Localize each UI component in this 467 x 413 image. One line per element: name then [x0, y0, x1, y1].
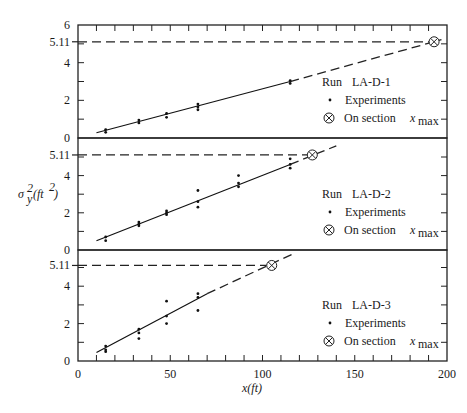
panel-1: 02465.11RunLA-D-1ExperimentsOn sectionxm…: [49, 18, 447, 145]
data-point: [137, 328, 140, 331]
data-point: [197, 200, 200, 203]
legend-experiments-label: Experiments: [345, 205, 406, 219]
x-axis-label: x(ft): [241, 381, 262, 395]
y-tick-label: 2: [64, 93, 70, 107]
data-point: [165, 210, 168, 213]
panel-3: 0245.11RunLA-D-3ExperimentsOn sectionxma…: [49, 250, 447, 368]
legend-experiments-marker: [329, 322, 332, 325]
data-point: [197, 108, 200, 111]
y-tick-label: 4: [64, 56, 70, 70]
data-point: [165, 300, 168, 303]
y-tick-label: 0: [64, 354, 70, 368]
legend-section-sub: max: [418, 114, 439, 128]
legend-experiments-label: Experiments: [345, 93, 406, 107]
x-tick-label: 150: [346, 367, 364, 381]
data-point: [289, 163, 292, 166]
fit-line: [96, 82, 290, 133]
legend-run-label: Run: [322, 75, 342, 89]
legend-run-name: LA-D-2: [352, 187, 391, 201]
panel-2: 0245.11RunLA-D-2ExperimentsOn sectionxma…: [49, 138, 447, 257]
data-point: [137, 337, 140, 340]
data-point: [197, 309, 200, 312]
legend-run-name: LA-D-1: [352, 75, 391, 89]
legend-experiments-label: Experiments: [345, 316, 406, 330]
x-max-marker: [267, 260, 277, 270]
legend-section-label: On section: [344, 334, 396, 348]
data-point: [104, 348, 107, 351]
legend-run-label: Run: [322, 298, 342, 312]
y-axis-label-unit: (ft: [33, 187, 44, 201]
data-point: [165, 315, 168, 318]
data-point: [289, 79, 292, 82]
fit-line: [96, 294, 207, 353]
reference-label: 5.11: [49, 35, 70, 49]
data-point: [137, 332, 140, 335]
legend-section-var: x: [409, 223, 416, 237]
data-point: [289, 157, 292, 160]
data-point: [237, 174, 240, 177]
data-point: [197, 106, 200, 109]
data-point: [165, 322, 168, 325]
data-point: [104, 131, 107, 134]
legend-experiments-marker: [329, 99, 332, 102]
legend-run-label: Run: [322, 187, 342, 201]
legend-section-sub: max: [418, 337, 439, 351]
y-axis-label-sigma: σ: [18, 187, 25, 201]
reference-label: 5.11: [49, 148, 70, 162]
legend-section-label: On section: [344, 223, 396, 237]
data-point: [104, 239, 107, 242]
legend-run-name: LA-D-3: [352, 298, 391, 312]
x-max-marker: [429, 37, 439, 47]
reference-label: 5.11: [49, 258, 70, 272]
y-tick-label: 6: [64, 18, 70, 32]
x-tick-label: 200: [438, 367, 456, 381]
x-axis: 050100150200: [75, 355, 456, 381]
data-point: [289, 167, 292, 170]
x-tick-label: 0: [75, 367, 81, 381]
extrapolation-dashed-line: [207, 253, 294, 293]
data-point: [137, 122, 140, 125]
y-tick-label: 4: [64, 169, 70, 183]
y-axis-label: σ 2 y (ft 2 ): [18, 180, 58, 206]
x-max-marker: [307, 150, 317, 160]
y-tick-label: 0: [64, 243, 70, 257]
data-point: [137, 221, 140, 224]
data-point: [104, 236, 107, 239]
data-point: [237, 182, 240, 185]
fit-line: [96, 164, 290, 240]
legend-section-sub: max: [418, 226, 439, 240]
data-point: [197, 206, 200, 209]
y-tick-label: 0: [64, 131, 70, 145]
data-point: [104, 128, 107, 131]
legend: RunLA-D-1ExperimentsOn sectionxmax: [322, 75, 439, 128]
legend-section-label: On section: [344, 111, 396, 125]
data-point: [289, 82, 292, 85]
legend-section-var: x: [409, 111, 416, 125]
data-point: [165, 116, 168, 119]
y-axis-label-close: ): [53, 187, 58, 201]
data-point: [165, 112, 168, 115]
data-point: [197, 189, 200, 192]
y-tick-label: 2: [64, 206, 70, 220]
y-tick-label: 2: [64, 317, 70, 331]
y-tick-label: 4: [64, 279, 70, 293]
data-point: [197, 296, 200, 299]
data-point: [197, 292, 200, 295]
panels: 02465.11RunLA-D-1ExperimentsOn sectionxm…: [49, 18, 447, 368]
legend: RunLA-D-2ExperimentsOn sectionxmax: [322, 187, 439, 240]
data-point: [237, 185, 240, 188]
x-tick-label: 50: [164, 367, 176, 381]
data-point: [104, 345, 107, 348]
x-tick-label: 100: [254, 367, 272, 381]
legend-section-var: x: [409, 334, 416, 348]
chart-figure: 02465.11RunLA-D-1ExperimentsOn sectionxm…: [0, 0, 467, 413]
legend-experiments-marker: [329, 211, 332, 214]
legend: RunLA-D-3ExperimentsOn sectionxmax: [322, 298, 439, 351]
data-point: [197, 103, 200, 106]
y-axis-label-sub: y: [26, 192, 33, 206]
data-point: [137, 119, 140, 122]
